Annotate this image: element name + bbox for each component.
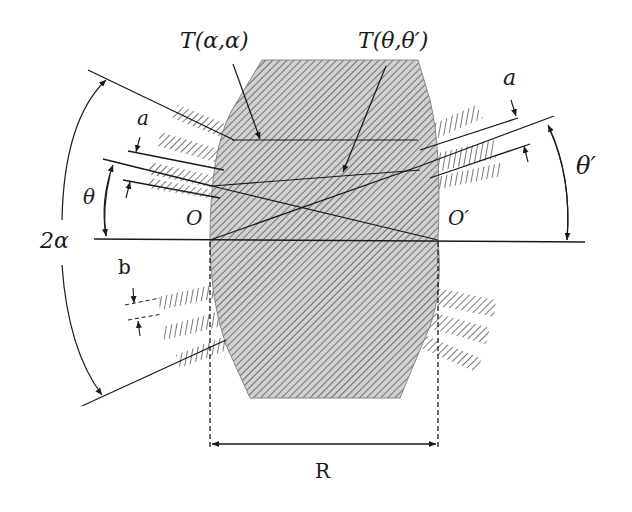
label-theta: θ: [83, 185, 95, 209]
two-alpha-arc-lower: [62, 265, 102, 395]
label-a-left: a: [137, 106, 149, 130]
lens-diagram: T(α,α) T(θ,θ′) a a θ θ′ 2α O O′ b R: [0, 0, 632, 512]
b-dashed-lines: [125, 298, 162, 320]
label-origin-o-prime: O′: [448, 206, 469, 230]
label-two-alpha: 2α: [39, 228, 69, 253]
label-a-right: a: [503, 65, 516, 90]
label-b: b: [118, 255, 131, 279]
label-t-theta-thetaprime: T(θ,θ′): [358, 28, 428, 53]
label-origin-o: O: [186, 206, 202, 230]
label-theta-prime: θ′: [576, 152, 596, 180]
theta-prime-arc-lower: [550, 130, 568, 240]
label-t-alpha-alpha: T(α,α): [180, 28, 249, 53]
label-r: R: [315, 459, 331, 483]
lens-body: [210, 60, 439, 398]
